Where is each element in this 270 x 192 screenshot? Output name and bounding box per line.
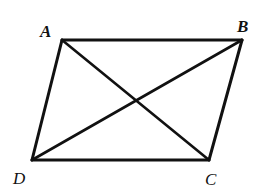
side-da <box>32 40 62 160</box>
parallelogram-diagram: A B C D <box>0 0 270 192</box>
vertex-label-a: A <box>39 22 51 41</box>
vertex-label-b: B <box>236 17 248 36</box>
diagonal-bd <box>32 40 242 160</box>
vertex-label-c: C <box>205 170 217 189</box>
side-bc <box>209 40 242 160</box>
vertex-label-d: D <box>12 169 26 188</box>
